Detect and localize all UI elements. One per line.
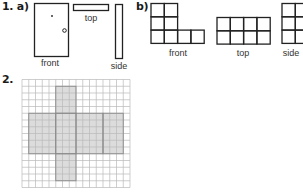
- net-grid: [0, 0, 303, 195]
